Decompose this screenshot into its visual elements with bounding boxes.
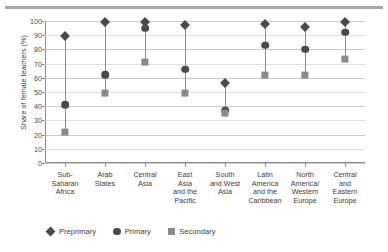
data-point-square [301, 71, 308, 78]
y-tick-label: 100 [30, 17, 42, 26]
range-stem [265, 24, 266, 75]
range-stem [185, 25, 186, 93]
data-point-square [141, 59, 148, 66]
x-tick-mark [65, 163, 66, 167]
data-point-square [261, 71, 268, 78]
gridline [45, 49, 365, 50]
chart-figure: Share of female teachers (%) 01020304050… [0, 0, 388, 252]
data-point-circle [341, 29, 349, 37]
gridline [45, 163, 365, 164]
y-tick-label: 60 [34, 73, 42, 82]
gridline [45, 21, 365, 22]
y-tick-mark [42, 120, 45, 121]
y-tick-mark [42, 64, 45, 65]
diamond-icon [46, 227, 56, 237]
y-tick-mark [42, 49, 45, 50]
y-tick-label: 80 [34, 45, 42, 54]
data-point-square [181, 90, 188, 97]
gridline [45, 106, 365, 107]
data-point-circle [301, 46, 309, 54]
legend-label: Preprimary [59, 227, 96, 236]
x-tick-mark [105, 163, 106, 167]
y-tick-label: 50 [34, 88, 42, 97]
gridline [45, 149, 365, 150]
y-axis-title: Share of female teachers (%) [19, 8, 28, 158]
range-stem [105, 22, 106, 93]
y-tick-mark [42, 163, 45, 164]
data-point-circle [181, 65, 189, 73]
data-point-circle [61, 101, 69, 109]
plot-area: 0102030405060708090100 Sub-SaharanAfrica… [45, 21, 365, 163]
legend-item[interactable]: Preprimary [46, 227, 96, 236]
y-tick-mark [42, 78, 45, 79]
data-point-square [61, 128, 68, 135]
y-tick-mark [42, 106, 45, 107]
gridline [45, 120, 365, 121]
y-tick-label: 20 [34, 130, 42, 139]
legend-label: Primary [125, 227, 151, 236]
legend-item[interactable]: Primary [113, 227, 151, 236]
y-tick-label: 70 [34, 59, 42, 68]
y-tick-mark [42, 135, 45, 136]
gridline [45, 64, 365, 65]
x-tick-mark [225, 163, 226, 167]
x-tick-mark [265, 163, 266, 167]
header-rule [5, 6, 383, 9]
data-point-circle [141, 24, 149, 32]
y-tick-mark [42, 35, 45, 36]
data-point-circle [101, 71, 109, 79]
chart-legend: PreprimaryPrimarySecondary [46, 227, 216, 236]
y-tick-label: 90 [34, 31, 42, 40]
gridline [45, 78, 365, 79]
gridline [45, 35, 365, 36]
legend-item[interactable]: Secondary [168, 227, 216, 236]
data-point-square [341, 56, 348, 63]
y-tick-mark [42, 21, 45, 22]
y-tick-label: 10 [34, 144, 42, 153]
x-tick-mark [305, 163, 306, 167]
y-tick-mark [42, 149, 45, 150]
range-stem [65, 37, 66, 132]
x-tick-mark [185, 163, 186, 167]
y-tick-mark [42, 92, 45, 93]
data-point-square [101, 90, 108, 97]
x-tick-mark [345, 163, 346, 167]
data-point-circle [261, 41, 269, 49]
square-icon [168, 228, 175, 235]
y-tick-label: 40 [34, 102, 42, 111]
y-tick-label: 30 [34, 116, 42, 125]
gridline [45, 135, 365, 136]
circle-icon [113, 228, 121, 236]
gridline [45, 92, 365, 93]
x-axis-label: CentralandEasternEurope [314, 171, 376, 205]
legend-label: Secondary [179, 227, 215, 236]
x-tick-mark [145, 163, 146, 167]
data-point-square [221, 110, 228, 117]
